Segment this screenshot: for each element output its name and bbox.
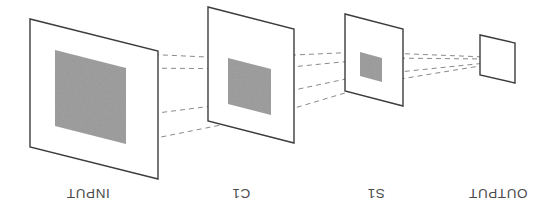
cnn-layer-diagram-figure: OUTPUT S1 C1 INPUT <box>0 0 558 215</box>
layer-label-input: INPUT <box>66 186 110 201</box>
layer-plane-c1 <box>208 7 294 143</box>
layer-label-output: OUTPUT <box>468 186 527 201</box>
output-plane-outline <box>480 35 515 83</box>
diagram-canvas: OUTPUT S1 C1 INPUT <box>0 0 558 215</box>
layer-plane-output <box>480 35 515 83</box>
rotated-diagram-stage: OUTPUT S1 C1 INPUT <box>0 0 558 215</box>
layer-label-c1: C1 <box>232 186 250 201</box>
layer-label-s1: S1 <box>367 186 385 201</box>
layer-plane-s1 <box>345 14 403 106</box>
